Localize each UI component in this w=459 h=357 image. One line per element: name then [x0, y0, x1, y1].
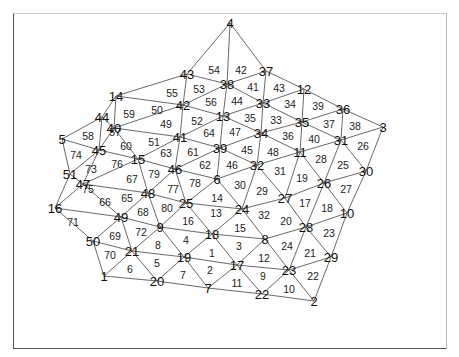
mesh-edge [55, 208, 121, 217]
triangle-label: 76 [111, 158, 123, 170]
node-label: 5 [58, 132, 65, 147]
triangle-label: 29 [256, 185, 268, 197]
node-label: 16 [48, 201, 62, 216]
triangle-label: 48 [267, 146, 279, 158]
triangle-label: 61 [187, 146, 199, 158]
node-label: 24 [235, 202, 249, 217]
mesh-edge [157, 281, 208, 288]
triangle-label: 68 [137, 206, 149, 218]
node-label: 46 [168, 162, 182, 177]
triangle-label: 12 [258, 252, 270, 264]
triangle-label: 79 [148, 168, 160, 180]
triangle-label: 24 [281, 240, 293, 252]
mesh-edge [227, 23, 230, 84]
triangle-label: 74 [70, 149, 82, 161]
triangle-label: 9 [260, 270, 266, 282]
node-label: 43 [180, 67, 194, 82]
node-label: 32 [250, 158, 264, 173]
triangle-label: 54 [208, 64, 220, 76]
node-label: 45 [92, 143, 106, 158]
node-label: 22 [255, 287, 269, 302]
node-label: 29 [324, 250, 338, 265]
triangle-label: 20 [280, 215, 292, 227]
node-label: 12 [297, 82, 311, 97]
node-label: 49 [114, 210, 128, 225]
triangle-label: 39 [312, 100, 324, 112]
node-label: 21 [125, 244, 139, 259]
triangle-label: 10 [283, 283, 295, 295]
triangle-label: 50 [151, 104, 163, 116]
triangle-label: 56 [205, 96, 217, 108]
node-label: 19 [177, 250, 191, 265]
triangle-label: 7 [180, 269, 186, 281]
node-label: 8 [261, 232, 268, 247]
triangle-label: 6 [127, 263, 133, 275]
triangle-label: 31 [274, 165, 286, 177]
node-label: 39 [213, 141, 227, 156]
triangle-label: 16 [182, 215, 194, 227]
node-label: 6 [213, 172, 220, 187]
node-label: 37 [259, 64, 273, 79]
triangle-label: 32 [258, 209, 270, 221]
node-label: 48 [141, 186, 155, 201]
node-label: 25 [179, 196, 193, 211]
triangular-mesh-diagram: 5442534143555644343950595235333738495758… [0, 0, 459, 357]
triangle-label: 60 [120, 140, 132, 152]
triangle-label: 22 [307, 270, 319, 282]
triangle-label: 63 [160, 147, 172, 159]
triangle-label: 49 [160, 118, 172, 130]
triangle-label: 71 [67, 216, 79, 228]
triangle-label: 73 [85, 163, 97, 175]
node-label: 23 [282, 263, 296, 278]
node-label: 42 [176, 98, 190, 113]
triangle-label: 69 [109, 230, 121, 242]
triangle-label: 34 [284, 98, 296, 110]
triangle-label: 3 [236, 240, 242, 252]
triangle-label: 11 [232, 277, 243, 289]
triangle-label: 28 [315, 153, 327, 165]
triangle-label: 36 [282, 130, 294, 142]
node-label: 27 [278, 191, 292, 206]
node-label: 13 [216, 109, 230, 124]
mesh-edge [212, 234, 265, 239]
node-label: 4 [226, 16, 233, 31]
node-label: 9 [156, 220, 163, 235]
triangle-label: 58 [82, 130, 94, 142]
node-label: 18 [205, 227, 219, 242]
node-label: 28 [299, 220, 313, 235]
triangle-label: 65 [121, 192, 133, 204]
triangle-label: 52 [191, 115, 203, 127]
node-label: 26 [317, 176, 331, 191]
node-label: 11 [293, 145, 307, 160]
triangle-label: 13 [210, 207, 222, 219]
node-label: 14 [109, 89, 123, 104]
triangle-label: 1 [209, 247, 215, 259]
triangle-label: 37 [323, 118, 335, 130]
triangle-label: 43 [273, 82, 285, 94]
triangle-label: 19 [296, 172, 308, 184]
node-labels: 4433738144212363313353444054134313945151… [48, 16, 387, 309]
triangle-label: 4 [183, 234, 189, 246]
triangle-label: 25 [337, 159, 349, 171]
mesh-edge [262, 294, 314, 301]
triangle-label: 26 [357, 140, 369, 152]
triangle-label: 5 [154, 257, 160, 269]
triangle-label: 78 [189, 177, 201, 189]
triangle-label: 38 [349, 120, 361, 132]
triangle-label: 51 [148, 136, 160, 148]
node-label: 31 [334, 133, 348, 148]
node-label: 7 [204, 281, 211, 296]
triangle-label: 59 [123, 108, 135, 120]
triangle-label: 23 [323, 227, 335, 239]
node-label: 17 [230, 258, 244, 273]
triangle-label: 42 [235, 64, 247, 76]
triangle-label: 15 [234, 222, 246, 234]
node-label: 36 [336, 102, 350, 117]
triangle-label: 72 [135, 226, 147, 238]
triangle-label: 44 [231, 95, 243, 107]
node-label: 41 [173, 130, 187, 145]
triangle-label: 70 [104, 249, 116, 261]
triangle-label: 67 [126, 173, 138, 185]
triangle-label: 35 [244, 112, 256, 124]
node-label: 3 [379, 120, 386, 135]
